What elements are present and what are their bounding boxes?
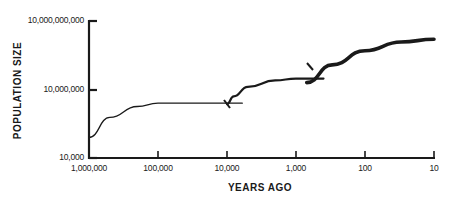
y-tick-label-top: 10,000,000,000	[4, 15, 84, 25]
data-curves	[89, 39, 434, 137]
x-tick-label-1000: 1,000	[266, 163, 326, 173]
x-tick-label-10000: 10,000	[197, 163, 257, 173]
population-chart: 10,000,000,000 10,000,000 10,000 1,000,0…	[0, 0, 453, 203]
x-axis-title: YEARS AGO	[200, 182, 320, 193]
x-tick-label-100: 100	[335, 163, 395, 173]
x-tick-label-10: 10	[404, 163, 453, 173]
y-axis-title: POPULATION SIZE	[12, 36, 23, 146]
x-tick-label-100000: 100,000	[128, 163, 188, 173]
x-tick-label-1000000: 1,000,000	[59, 163, 119, 173]
y-tick-label-bottom: 10,000	[4, 152, 84, 162]
population-curve-1	[89, 103, 242, 137]
population-curve-3	[307, 39, 434, 82]
curve-junction-mark	[307, 63, 313, 70]
